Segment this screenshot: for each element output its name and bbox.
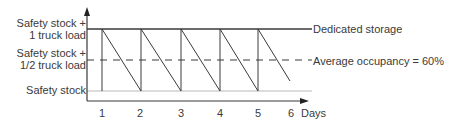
x-tick-5: 5 (255, 107, 261, 119)
x-tick-2: 2 (137, 107, 143, 119)
x-tick-3: 3 (178, 107, 184, 119)
x-tick-6: 6 (288, 107, 294, 119)
y-label-top-2: 1 truck load (0, 29, 86, 42)
inventory-diagram: Safety stock + 1 truck load Safety stock… (0, 0, 456, 128)
y-label-bottom: Safety stock (0, 84, 86, 97)
x-tick-4: 4 (217, 107, 223, 119)
x-axis-arrow-icon (300, 98, 309, 104)
y-label-mid-2: 1/2 truck load (0, 59, 86, 72)
x-tick-1: 1 (99, 107, 105, 119)
y-axis-arrow-icon (84, 7, 90, 16)
legend-dedicated-storage: Dedicated storage (313, 23, 402, 36)
x-axis-label: Days (301, 107, 326, 120)
legend-average-occupancy: Average occupancy = 60% (313, 55, 444, 68)
